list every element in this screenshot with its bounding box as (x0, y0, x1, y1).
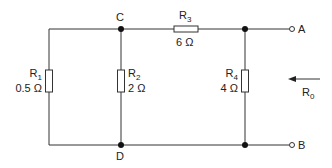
r2-value: 2 Ω (128, 83, 145, 94)
junction-r4-top (242, 26, 248, 32)
resistor-r4 (242, 70, 249, 92)
resistor-r3 (174, 26, 198, 32)
arrow-left-icon (288, 76, 296, 82)
resistor-r2 (118, 70, 125, 92)
resistor-r1 (46, 70, 53, 92)
node-label-c: C (116, 12, 124, 23)
r0-label: R0 (302, 87, 314, 101)
r1-name: R1 (14, 68, 42, 82)
terminal-b (290, 143, 295, 148)
r3-value: 6 Ω (176, 37, 193, 48)
node-label-d: D (116, 151, 124, 162)
terminal-a (290, 27, 295, 32)
junction-r4-bottom (242, 142, 248, 148)
terminal-label-a: A (298, 24, 305, 35)
terminal-label-b: B (298, 140, 305, 151)
r1-value: 0.5 Ω (2, 83, 42, 94)
r4-value: 4 Ω (208, 83, 238, 94)
r3-name: R3 (179, 10, 191, 24)
circuit-diagram (0, 0, 332, 168)
r2-name: R2 (128, 68, 140, 82)
junction-d (118, 142, 124, 148)
r4-name: R4 (208, 68, 238, 82)
junction-c (118, 26, 124, 32)
